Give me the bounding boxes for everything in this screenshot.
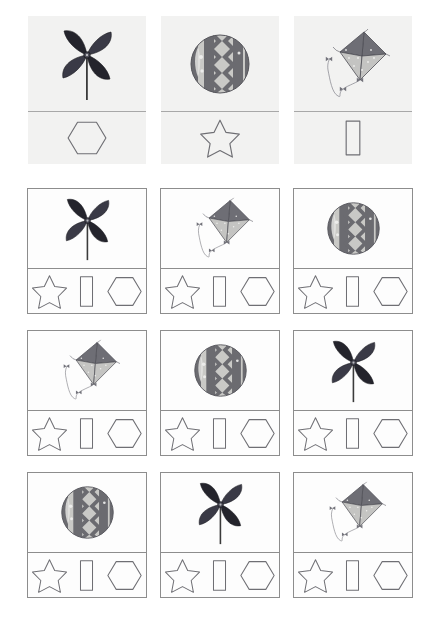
- star-shape-icon: [31, 273, 68, 310]
- ball-icon: [60, 485, 115, 540]
- answer-option-rectangle[interactable]: [68, 557, 105, 594]
- answer-option-hexagon[interactable]: [239, 415, 276, 452]
- hexagon-shape-icon: [106, 415, 143, 452]
- answer-option-star[interactable]: [31, 557, 68, 594]
- legend-shape-star: [161, 112, 279, 164]
- answer-option-hexagon[interactable]: [106, 415, 143, 452]
- star-shape-icon: [164, 557, 201, 594]
- answer-option-rectangle[interactable]: [68, 273, 105, 310]
- question-grid: [27, 188, 413, 598]
- answer-options: [28, 553, 146, 597]
- kite-icon: [316, 28, 390, 100]
- answer-option-hexagon[interactable]: [372, 557, 409, 594]
- kite-icon: [188, 197, 253, 260]
- question-toy-pinwheel: [161, 473, 279, 553]
- legend-shape-rectangle: [294, 112, 412, 164]
- legend-row: [28, 16, 412, 164]
- rectangle-shape-icon: [201, 557, 238, 594]
- question-cell[interactable]: [293, 188, 413, 314]
- rectangle-shape-icon: [68, 557, 105, 594]
- answer-option-star[interactable]: [297, 415, 334, 452]
- ball-icon: [326, 201, 381, 256]
- answer-option-rectangle[interactable]: [201, 557, 238, 594]
- legend-panel-ball: [161, 16, 279, 164]
- answer-option-rectangle[interactable]: [201, 415, 238, 452]
- legend-shape-hexagon: [28, 112, 146, 164]
- answer-option-hexagon[interactable]: [106, 557, 143, 594]
- hexagon-shape-icon: [106, 273, 143, 310]
- question-toy-kite: [294, 473, 412, 553]
- hexagon-shape-icon: [239, 415, 276, 452]
- hexagon-shape-icon: [239, 557, 276, 594]
- answer-option-hexagon[interactable]: [106, 273, 143, 310]
- answer-option-rectangle[interactable]: [334, 557, 371, 594]
- answer-option-rectangle[interactable]: [68, 415, 105, 452]
- question-cell[interactable]: [293, 330, 413, 456]
- rectangle-shape-icon: [68, 415, 105, 452]
- rectangle-shape-icon: [68, 273, 105, 310]
- question-cell[interactable]: [160, 472, 280, 598]
- legend-toy-ball: [161, 16, 279, 111]
- grid-row: [27, 472, 413, 598]
- hexagon-shape-icon: [239, 273, 276, 310]
- answer-option-rectangle[interactable]: [334, 273, 371, 310]
- question-toy-kite: [161, 189, 279, 269]
- question-toy-ball: [28, 473, 146, 553]
- answer-options: [161, 269, 279, 313]
- question-cell[interactable]: [27, 330, 147, 456]
- legend-toy-kite: [294, 16, 412, 111]
- star-shape-icon: [31, 415, 68, 452]
- question-toy-pinwheel: [28, 189, 146, 269]
- answer-option-star[interactable]: [164, 415, 201, 452]
- answer-options: [28, 411, 146, 455]
- question-cell[interactable]: [27, 472, 147, 598]
- answer-option-star[interactable]: [297, 273, 334, 310]
- star-shape-icon: [297, 415, 334, 452]
- answer-options: [28, 269, 146, 313]
- answer-option-rectangle[interactable]: [334, 415, 371, 452]
- legend-toy-pinwheel: [28, 16, 146, 111]
- question-cell[interactable]: [27, 188, 147, 314]
- answer-option-star[interactable]: [164, 273, 201, 310]
- question-toy-ball: [161, 331, 279, 411]
- rectangle-shape-icon: [201, 415, 238, 452]
- question-cell[interactable]: [293, 472, 413, 598]
- star-shape-icon: [164, 415, 201, 452]
- question-toy-kite: [28, 331, 146, 411]
- pinwheel-icon: [56, 27, 118, 101]
- rectangle-shape-icon: [334, 415, 371, 452]
- grid-row: [27, 188, 413, 314]
- answer-option-star[interactable]: [297, 557, 334, 594]
- legend-panel-kite: [294, 16, 412, 164]
- question-cell[interactable]: [160, 330, 280, 456]
- answer-options: [294, 411, 412, 455]
- rectangle-shape-icon: [332, 117, 374, 159]
- question-cell[interactable]: [160, 188, 280, 314]
- question-toy-pinwheel: [294, 331, 412, 411]
- answer-options: [294, 553, 412, 597]
- kite-icon: [55, 339, 120, 402]
- answer-option-star[interactable]: [31, 273, 68, 310]
- hexagon-shape-icon: [372, 557, 409, 594]
- star-shape-icon: [199, 117, 241, 159]
- hexagon-shape-icon: [372, 415, 409, 452]
- pinwheel-icon: [326, 338, 381, 403]
- rectangle-shape-icon: [201, 273, 238, 310]
- legend-panel-pinwheel: [28, 16, 146, 164]
- star-shape-icon: [297, 557, 334, 594]
- answer-options: [161, 411, 279, 455]
- star-shape-icon: [164, 273, 201, 310]
- answer-option-hexagon[interactable]: [239, 557, 276, 594]
- answer-option-hexagon[interactable]: [372, 273, 409, 310]
- rectangle-shape-icon: [334, 273, 371, 310]
- answer-option-star[interactable]: [31, 415, 68, 452]
- answer-option-rectangle[interactable]: [201, 273, 238, 310]
- answer-option-hexagon[interactable]: [372, 415, 409, 452]
- answer-options: [294, 269, 412, 313]
- worksheet-page: [0, 0, 439, 629]
- pinwheel-icon: [60, 196, 115, 261]
- answer-option-hexagon[interactable]: [239, 273, 276, 310]
- answer-option-star[interactable]: [164, 557, 201, 594]
- star-shape-icon: [31, 557, 68, 594]
- hexagon-shape-icon: [66, 117, 108, 159]
